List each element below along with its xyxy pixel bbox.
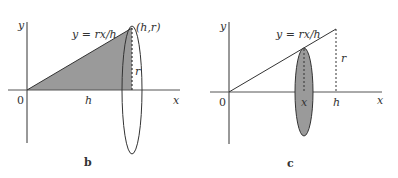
radius-label: r xyxy=(341,52,347,65)
caption-b: b xyxy=(84,156,92,169)
radius-label: r xyxy=(135,65,141,78)
height-label: h xyxy=(85,94,92,107)
equation-label: y = rx/h xyxy=(71,28,117,41)
figure: y y = rx/h (h,r) r 0 h x b y y = rx/h r … xyxy=(0,0,398,178)
caption-c: c xyxy=(287,157,294,170)
slice-x-label: x xyxy=(301,96,308,109)
y-axis-label: y xyxy=(219,20,227,33)
x-axis-label: x xyxy=(173,94,180,107)
equation-label: y = rx/h xyxy=(275,28,321,41)
x-axis-label: x xyxy=(377,94,384,107)
panel-c: y y = rx/h r 0 x h x c xyxy=(210,20,384,170)
panel-b: y y = rx/h (h,r) r 0 h x b xyxy=(8,19,180,169)
origin-label: 0 xyxy=(219,96,226,109)
apex-label: (h,r) xyxy=(136,21,160,34)
height-label: h xyxy=(333,96,340,109)
origin-label: 0 xyxy=(17,94,24,107)
y-axis-label: y xyxy=(17,19,25,32)
